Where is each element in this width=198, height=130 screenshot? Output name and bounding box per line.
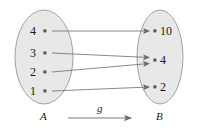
element-label-b-10: 10 (160, 25, 172, 37)
diagram-canvas: 4 3 2 1 10 4 2 A B g (0, 0, 198, 130)
element-label-a-1: 1 (30, 85, 36, 97)
element-label-a-4: 4 (30, 25, 36, 37)
dot-a-3 (43, 51, 46, 54)
element-label-b-4: 4 (160, 54, 166, 66)
element-label-a-2: 2 (30, 66, 36, 78)
element-label-b-2: 2 (160, 81, 166, 93)
dot-a-4 (43, 29, 46, 32)
element-label-a-3: 3 (30, 47, 36, 59)
dot-b-4 (153, 59, 156, 62)
set-name-b: B (156, 111, 163, 122)
arrow-1-to-2 (52, 87, 149, 91)
dot-b-2 (153, 85, 156, 88)
dot-b-10 (153, 29, 156, 32)
set-name-a: A (40, 111, 47, 122)
function-label: g (97, 103, 103, 114)
dot-a-1 (43, 89, 46, 92)
dot-a-2 (43, 70, 46, 73)
